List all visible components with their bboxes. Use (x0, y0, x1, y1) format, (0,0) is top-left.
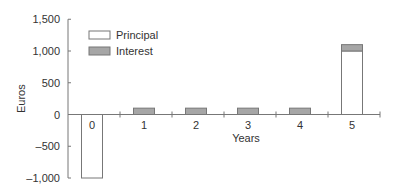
bar-interest (342, 45, 363, 51)
x-tick-label: 5 (349, 119, 355, 131)
x-tick-label: 1 (141, 119, 147, 131)
x-tick-label: 3 (245, 119, 251, 131)
bar-chart: 1,5001,0005000–500–1,000012345YearsEuros… (0, 0, 396, 192)
legend-label-principal: Principal (116, 29, 158, 41)
y-tick-label: 1,500 (32, 13, 60, 25)
chart: 1,5001,0005000–500–1,000012345YearsEuros… (0, 0, 396, 192)
bar-interest (186, 108, 207, 114)
x-tick-label: 2 (193, 119, 199, 131)
y-axis-label: Euros (15, 84, 27, 113)
x-axis-label: Years (232, 132, 260, 144)
bar-interest (290, 108, 311, 114)
legend-label-interest: Interest (116, 45, 153, 57)
bar-principal (342, 51, 363, 115)
y-tick-label: –1,000 (26, 172, 60, 184)
bar-interest (238, 108, 259, 114)
x-tick-label: 4 (297, 119, 303, 131)
legend-swatch-principal (89, 31, 110, 39)
y-tick-label: –500 (36, 140, 60, 152)
legend-swatch-interest (89, 47, 110, 55)
y-tick-label: 1,000 (32, 45, 60, 57)
y-tick-label: 0 (54, 109, 60, 121)
x-tick-label: 0 (89, 119, 95, 131)
y-tick-label: 500 (42, 77, 60, 89)
bar-interest (134, 108, 155, 114)
